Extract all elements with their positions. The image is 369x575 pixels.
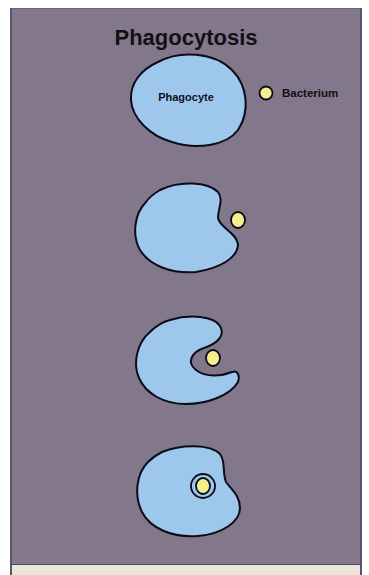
phagocyte-cell-engulfing [136, 317, 239, 404]
phagocyte-label: Phagocyte [158, 91, 214, 103]
bacterium [231, 212, 245, 228]
diagram-title: Phagocytosis [114, 25, 257, 50]
bacterium-engulfed [196, 478, 210, 494]
bacterium-label: Bacterium [282, 87, 338, 99]
phagocyte-cell-with-phagosome [137, 446, 240, 536]
bacterium-icon [260, 87, 273, 100]
phagocyte-cell-indenting [135, 183, 238, 272]
phagocytosis-diagram: Phagocytosis Phagocyte Bacterium [0, 0, 369, 575]
stage-1: Phagocyte Bacterium [131, 54, 338, 146]
bacterium [206, 350, 220, 366]
stage-4 [137, 446, 240, 536]
stage-3 [136, 317, 239, 404]
stage-2 [135, 183, 245, 272]
